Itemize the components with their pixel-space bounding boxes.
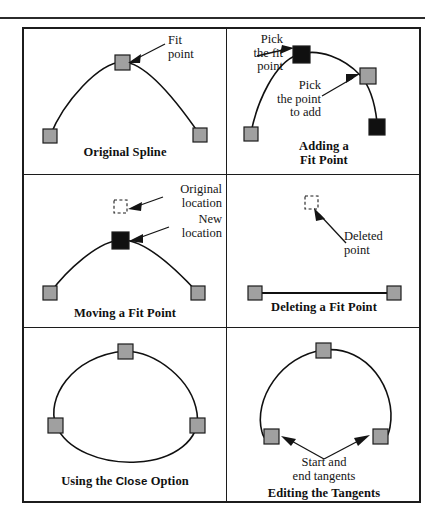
closed-spline-curve [54, 351, 198, 462]
fit-point-leader-arrow [128, 44, 165, 63]
panel-caption-editing-the-tangents: Editing the Tangents [227, 486, 421, 500]
panel-using-the-close-option: Using the Close Option [24, 328, 226, 501]
caption-command-close: Close [116, 475, 148, 487]
end-point-marker [369, 119, 385, 135]
fit-point-marker-end [193, 128, 207, 142]
callout-new-location: New location [150, 213, 222, 240]
new-point-marker [360, 68, 376, 84]
caption-text-post: Option [147, 474, 188, 488]
callout-deleted-point: Deleted point [344, 230, 414, 257]
new-location-marker [112, 232, 129, 249]
panel-caption-deleting-a-fit-point: Deleting a Fit Point [227, 300, 421, 314]
panel-caption-moving-a-fit-point: Moving a Fit Point [24, 306, 226, 320]
spline-curve [50, 62, 200, 136]
fit-point-marker-top [316, 343, 331, 358]
callout-original-location: Original location [142, 183, 222, 210]
fit-point-marker-start [248, 286, 262, 300]
panel-original-spline: Fit point Original Spline [24, 29, 226, 174]
callout-pick-the-fit-point: Pick the fit point [229, 33, 283, 74]
top-horizontal-rule [0, 17, 425, 19]
start-tangent-point-marker [264, 429, 279, 444]
caption-text-pre: Using the [61, 474, 115, 488]
pick-point-to-add-leader-arrow [322, 74, 360, 96]
fit-point-marker-end [387, 286, 401, 300]
panel-caption-adding-a-fit-point-line1: Adding a [227, 139, 421, 153]
fit-point-marker-left [48, 418, 63, 433]
panel-moving-a-fit-point: Original location New location Moving a … [24, 175, 226, 327]
fit-point-marker-end [191, 286, 205, 300]
panel-deleting-a-fit-point: Deleted point Deleting a Fit Point [227, 175, 421, 327]
selected-fit-point-marker [293, 46, 310, 63]
figure-page: Fit point Original Spline [0, 0, 446, 525]
deleted-point-dashed-marker [305, 196, 318, 209]
original-location-dashed-marker [114, 200, 127, 213]
fit-point-marker-apex [115, 55, 130, 70]
fit-point-marker-start [43, 129, 57, 143]
fit-point-marker-right [190, 418, 205, 433]
callout-start-and-end-tangents: Start and end tangents [264, 456, 384, 483]
end-tangent-point-marker [373, 429, 388, 444]
tangent-spline-curve [260, 350, 391, 439]
fit-point-marker-start [43, 286, 57, 300]
fit-point-marker-top [118, 344, 133, 359]
callout-fit-point: Fit point [168, 34, 224, 61]
panel-editing-the-tangents: Start and end tangents Editing the Tange… [227, 328, 421, 501]
callout-pick-the-point-to-add: Pick the point to add [255, 79, 321, 120]
panel-caption-adding-a-fit-point-line2: Fit Point [227, 153, 421, 167]
panel-caption-using-the-close-option: Using the Close Option [24, 474, 226, 488]
deleted-point-leader-arrow [314, 208, 346, 243]
panel-grid: Fit point Original Spline [22, 27, 421, 503]
panel-caption-original-spline: Original Spline [24, 145, 226, 159]
panel-adding-a-fit-point: Pick the fit point Pick the point to add… [227, 29, 421, 174]
